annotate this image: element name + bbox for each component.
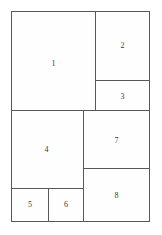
- region-6[interactable]: 6: [48, 188, 84, 222]
- region-5[interactable]: 5: [11, 188, 49, 222]
- region-4[interactable]: 4: [11, 110, 84, 189]
- region-1[interactable]: 1: [11, 11, 96, 111]
- region-2-label: 2: [121, 42, 125, 50]
- region-5-label: 5: [28, 201, 32, 209]
- region-7-label: 7: [115, 137, 119, 145]
- diagram-canvas: 1 2 3 4 5 6 7 8: [0, 0, 162, 235]
- region-8-label: 8: [115, 192, 119, 200]
- rectangle-packing-diagram: 1 2 3 4 5 6 7 8: [11, 11, 150, 222]
- region-2[interactable]: 2: [95, 11, 150, 81]
- region-8[interactable]: 8: [83, 168, 150, 222]
- region-7[interactable]: 7: [83, 110, 150, 169]
- region-1-label: 1: [52, 60, 56, 68]
- region-6-label: 6: [64, 201, 68, 209]
- region-3[interactable]: 3: [95, 80, 150, 111]
- region-3-label: 3: [121, 93, 125, 101]
- region-4-label: 4: [45, 146, 49, 154]
